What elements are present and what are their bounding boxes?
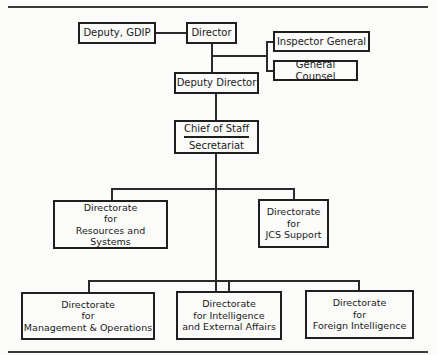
node-label: Director: [191, 27, 231, 39]
node-directorate-intel-external: Directorate for Intelligence and Externa…: [176, 291, 282, 340]
node-label: Deputy Director: [177, 77, 257, 89]
node-director: Director: [186, 22, 237, 44]
node-label: Inspector General: [277, 36, 366, 48]
org-chart: Deputy, GDIP Director Inspector General …: [0, 0, 437, 355]
node-label: General Counsel: [275, 59, 356, 82]
node-directorate-resources: Directorate for Resources and Systems: [53, 200, 168, 249]
node-inspector-general: Inspector General: [273, 31, 370, 52]
node-line: Resources and Systems: [55, 225, 166, 248]
node-label: Chief of Staff: [184, 123, 249, 135]
connector-director-staff: [211, 55, 267, 57]
node-line: Management & Operations: [24, 322, 152, 334]
connector-deputy-chief: [215, 93, 217, 120]
node-label: Deputy, GDIP: [83, 27, 150, 39]
connector-management: [88, 280, 90, 292]
node-line: Foreign Intelligence: [313, 320, 406, 332]
top-rule: [8, 6, 428, 8]
bottom-rule: [8, 351, 428, 353]
connector-resources: [111, 188, 113, 200]
node-directorate-management: Directorate for Management & Operations: [21, 292, 155, 340]
node-line: Directorate: [333, 297, 387, 309]
node-line: for: [104, 213, 117, 225]
node-directorate-foreign: Directorate for Foreign Intelligence: [305, 290, 414, 339]
node-line: for: [287, 218, 300, 230]
node-deputy-gdip: Deputy, GDIP: [78, 22, 156, 44]
connector-director-deputy: [211, 43, 213, 73]
node-line: Directorate: [84, 202, 138, 214]
connector-mid-row: [111, 188, 294, 190]
node-directorate-jcs: Directorate for JCS Support: [258, 199, 329, 248]
node-sublabel: Secretariat: [189, 140, 244, 152]
connector-bottom-row: [88, 280, 358, 282]
node-line: and External Affairs: [182, 321, 276, 333]
node-line: Directorate: [267, 206, 321, 218]
node-line: JCS Support: [265, 229, 321, 241]
node-deputy-director: Deputy Director: [174, 72, 259, 94]
divider: [184, 136, 249, 138]
node-general-counsel: General Counsel: [273, 60, 358, 81]
node-chief-of-staff: Chief of Staff Secretariat: [174, 120, 259, 154]
node-line: Directorate: [202, 298, 256, 310]
connector-staff-branch: [266, 41, 268, 71]
node-line: for: [353, 309, 366, 321]
node-line: for Intelligence: [193, 310, 264, 322]
node-line: for: [81, 310, 94, 322]
connector-chief-down: [215, 153, 217, 292]
connector-gdip-director: [155, 32, 186, 34]
node-line: Directorate: [61, 299, 115, 311]
